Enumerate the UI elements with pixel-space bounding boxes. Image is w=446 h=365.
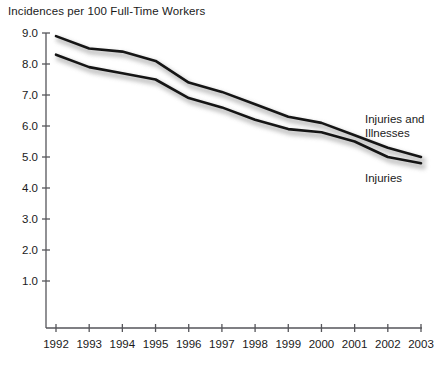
series-lines [56,36,424,167]
x-tick-label: 1993 [76,338,102,350]
line-chart-plot: 1.02.03.04.05.06.07.08.09.0 199219931994… [0,0,446,365]
x-tick-label: 1998 [242,338,268,350]
x-tick-label: 2002 [375,338,401,350]
y-tick-label: 8.0 [22,58,38,70]
y-tick-label: 3.0 [22,213,38,225]
series-label-injuries-and-illnesses-line2: Illnesses [365,127,410,139]
y-tick-label: 2.0 [22,244,38,256]
x-tick-label: 2001 [342,338,368,350]
y-tick-label: 1.0 [22,275,38,287]
series-label-injuries-and-illnesses-line1: Injuries and [365,113,424,125]
x-tick-label: 1995 [143,338,169,350]
x-tick-label: 1994 [110,338,136,350]
x-tick-label: 2000 [309,338,335,350]
y-tick-label: 5.0 [22,151,38,163]
y-tick-label: 7.0 [22,89,38,101]
y-axis: 1.02.03.04.05.06.07.08.09.0 [22,27,50,328]
y-tick-label: 4.0 [22,182,38,194]
chart-container: Incidences per 100 Full-Time Workers 1.0… [0,0,446,365]
series-line [56,55,421,164]
x-tick-label: 2003 [408,338,434,350]
x-tick-label: 1999 [275,338,301,350]
series-label-injuries: Injuries [365,172,402,184]
x-tick-label: 1996 [176,338,202,350]
y-tick-label: 9.0 [22,27,38,39]
y-tick-label: 6.0 [22,120,38,132]
x-tick-label: 1997 [209,338,235,350]
series-injuries-and-illnesses [56,36,424,160]
x-tick-label: 1992 [43,338,69,350]
x-axis: 1992199319941995199619971998199920002001… [43,324,434,350]
series-injuries [56,55,424,167]
